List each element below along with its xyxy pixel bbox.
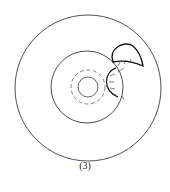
middle-circle xyxy=(51,51,123,123)
scalloped-ring xyxy=(71,70,105,104)
figure-caption: (3) xyxy=(0,160,170,171)
hatched-arc xyxy=(107,68,119,97)
outer-circle xyxy=(15,15,161,161)
inner-circle xyxy=(78,77,98,97)
petal-loop xyxy=(112,44,143,66)
